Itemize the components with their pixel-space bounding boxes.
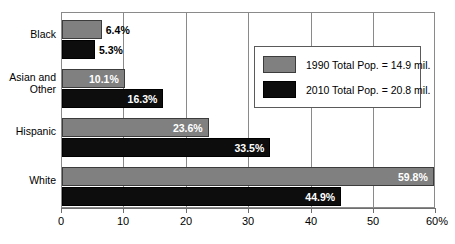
legend-label-1990: 1990 Total Pop. = 14.9 mil. [306, 59, 430, 71]
x-tick-label-50: 50 [367, 215, 379, 227]
x-tick-20 [186, 208, 187, 213]
category-label-hispanic: Hispanic [0, 125, 56, 137]
legend-item-2010: 2010 Total Pop. = 20.8 mil. [263, 79, 412, 100]
x-tick-10 [123, 208, 124, 213]
bar-black-2010[interactable]: 5.3% [62, 40, 95, 59]
x-tick-0 [61, 208, 62, 213]
legend-item-1990: 1990 Total Pop. = 14.9 mil. [263, 54, 412, 75]
bar-asian-and-other-2010[interactable]: 16.3% [62, 89, 163, 108]
x-tick-label-0: 0 [58, 215, 64, 227]
x-tick-30 [248, 208, 249, 213]
bar-white-1990[interactable]: 59.8% [62, 167, 434, 186]
black-swatch-icon [263, 81, 296, 98]
bar-hispanic-1990[interactable]: 23.6% [62, 118, 209, 137]
x-tick-label-40: 40 [305, 215, 317, 227]
bar-white-2010[interactable]: 44.9% [62, 187, 341, 206]
plot-area: 6.4% 5.3% 10.1% 16.3% 23.6% 33.5% [61, 12, 435, 208]
bar-value-black-1990: 6.4% [106, 21, 130, 40]
bar-group-hispanic: 23.6% 33.5% [62, 118, 434, 159]
gray-swatch-icon [263, 56, 296, 73]
legend-label-2010: 2010 Total Pop. = 20.8 mil. [306, 84, 430, 96]
bar-value-white-2010: 44.9% [305, 188, 335, 207]
category-label-asian-and-other: Asian and Other [0, 71, 56, 95]
x-tick-label-10: 10 [117, 215, 129, 227]
bar-value-white-1990: 59.8% [398, 168, 428, 187]
category-label-white: White [0, 174, 56, 186]
bar-value-asian-and-other-2010: 16.3% [128, 90, 158, 109]
bar-value-hispanic-1990: 23.6% [173, 119, 203, 138]
bar-hispanic-2010[interactable]: 33.5% [62, 138, 270, 157]
x-tick-label-60: 60% [426, 215, 448, 227]
bar-asian-and-other-1990[interactable]: 10.1% [62, 69, 125, 88]
category-label-black: Black [0, 28, 56, 40]
x-tick-40 [311, 208, 312, 213]
bar-value-black-2010: 5.3% [99, 41, 123, 60]
bar-group-white: 59.8% 44.9% [62, 167, 434, 208]
bar-value-asian-and-other-1990: 10.1% [89, 70, 119, 89]
x-tick-label-30: 30 [242, 215, 254, 227]
bar-black-1990[interactable]: 6.4% [62, 20, 102, 39]
population-share-bar-chart: Black Asian and Other Hispanic White 6.4… [0, 0, 455, 244]
x-tick-50 [373, 208, 374, 213]
category-axis-labels: Black Asian and Other Hispanic White [0, 12, 56, 208]
x-tick-label-20: 20 [180, 215, 192, 227]
x-tick-60 [435, 208, 436, 213]
bar-value-hispanic-2010: 33.5% [234, 139, 264, 158]
chart-legend: 1990 Total Pop. = 14.9 mil. 2010 Total P… [254, 46, 421, 108]
